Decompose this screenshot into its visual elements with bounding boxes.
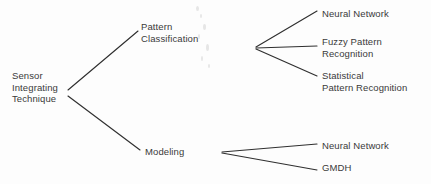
edge-pattern-classification-to-fuzzy-pattern-recognition [256,46,317,48]
node-line: Pattern Recognition [322,82,407,94]
node-sensor-integrating-technique: Sensor Integrating Technique [12,70,58,105]
diagram-canvas: Sensor Integrating Technique Pattern Cla… [0,0,431,184]
edge-pattern-classification-to-neural-network [256,11,317,47]
node-line: Integrating [12,82,58,94]
node-modeling: Modeling [145,146,184,158]
node-line: Statistical [322,70,407,82]
node-line: Neural Network [322,140,389,152]
edge-pattern-classification-to-statistical-pattern-recognition [256,49,317,76]
node-fuzzy-pattern-recognition: Fuzzy Pattern Recognition [322,36,382,59]
node-neural-network-modeling: Neural Network [322,140,389,152]
node-statistical-pattern-recognition: Statistical Pattern Recognition [322,70,407,93]
node-line: Classification [141,33,198,45]
node-line: Modeling [145,146,184,158]
node-line: GMDH [322,162,351,174]
node-line: Neural Network [322,8,389,20]
node-line: Sensor [12,70,58,82]
edge-root-to-pattern-classification [68,31,138,90]
edge-modeling-to-neural-network [222,144,317,152]
node-gmdh: GMDH [322,162,351,174]
edge-modeling-to-gmdh [222,153,317,170]
node-line: Fuzzy Pattern [322,36,382,48]
node-pattern-classification: Pattern Classification [141,21,198,44]
node-line: Recognition [322,48,382,60]
node-neural-network-pattern-classification: Neural Network [322,8,389,20]
node-line: Technique [12,93,58,105]
node-line: Pattern [141,21,198,33]
edge-root-to-modeling [68,96,140,150]
